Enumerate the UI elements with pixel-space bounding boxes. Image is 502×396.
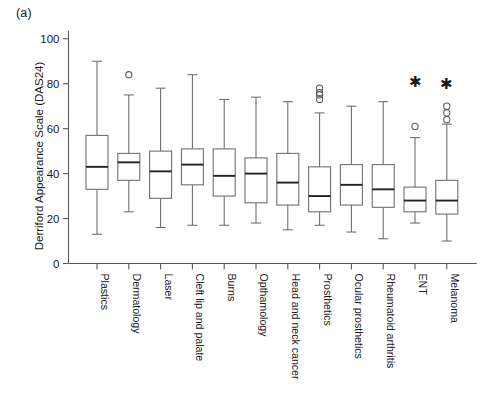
box-plot-item	[213, 99, 235, 225]
y-tick-label: 60	[47, 123, 60, 135]
outlier-marker	[444, 103, 450, 109]
box-plot-item	[150, 88, 172, 227]
x-tick-label: Laser	[163, 274, 175, 301]
x-tick-label: Ocular prosthetics	[353, 274, 365, 359]
outlier-marker	[412, 123, 418, 129]
box-plot-item	[181, 75, 203, 226]
box-plot-item: ✱	[436, 75, 458, 241]
boxplot-figure: (a) Derriford Appearance Scale (DAS24) 0…	[0, 0, 502, 396]
iqr-box	[118, 153, 140, 180]
x-axis	[69, 264, 477, 270]
x-tick-label: Prosthetics	[322, 274, 334, 326]
box-plot-item	[86, 61, 108, 234]
category-labels: PlasticsDermatologyLaserCleft lip and pa…	[99, 274, 461, 380]
iqr-box	[181, 149, 203, 185]
outlier-marker	[126, 72, 132, 78]
iqr-box	[150, 151, 172, 198]
box-plot-item	[372, 102, 394, 239]
extreme-value-marker: ✱	[409, 73, 422, 90]
box-plot-item	[309, 85, 331, 225]
y-tick-label: 0	[53, 258, 59, 270]
iqr-box	[372, 165, 394, 208]
box-plot-item	[245, 97, 267, 223]
iqr-box	[277, 153, 299, 205]
x-tick-label: Rheumatoid arthritis	[385, 274, 397, 369]
iqr-box	[436, 180, 458, 214]
x-tick-label: Melanoma	[449, 274, 461, 324]
iqr-box	[404, 187, 426, 212]
box-plot-item	[277, 102, 299, 230]
iqr-box	[309, 167, 331, 212]
outlier-marker	[444, 117, 450, 123]
iqr-box	[86, 135, 108, 189]
x-tick-label: ENT	[417, 274, 429, 296]
x-tick-label: Plastics	[99, 274, 111, 311]
y-tick-label: 20	[47, 213, 60, 225]
x-tick-label: Dermatology	[131, 274, 143, 335]
outlier-marker	[317, 85, 323, 91]
iqr-box	[245, 158, 267, 203]
panel-label: (a)	[16, 6, 32, 20]
x-tick-label: Burns	[226, 274, 238, 302]
x-tick-label: Cleft lip and palate	[194, 274, 206, 362]
x-tick-label: Opthamology	[258, 274, 270, 338]
y-tick-label: 40	[47, 168, 60, 180]
y-tick-label: 80	[47, 78, 60, 90]
box-plot-item: ✱	[404, 73, 426, 223]
box-plot-item	[118, 72, 140, 212]
x-tick-label: Head and neck cancer	[290, 274, 302, 380]
box-series: ✱✱	[86, 61, 458, 241]
extreme-value-marker: ✱	[440, 75, 453, 92]
box-plot-item	[340, 106, 362, 232]
y-axis-label: Derriford Appearance Scale (DAS24)	[33, 41, 45, 271]
iqr-box	[213, 149, 235, 196]
plot-canvas: 020406080100 ✱✱ PlasticsDermatologyLaser…	[0, 0, 502, 396]
outlier-marker	[444, 110, 450, 116]
